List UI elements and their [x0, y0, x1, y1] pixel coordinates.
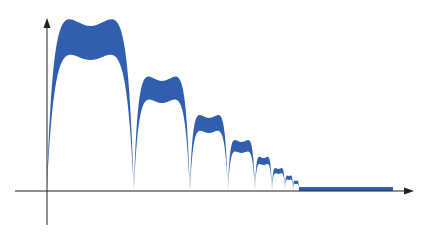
x-axis-arrow-icon [404, 188, 414, 195]
arc-band-5 [255, 157, 272, 191]
arc-band-1 [47, 19, 134, 191]
arc-band-8 [293, 181, 299, 191]
arc-band-6 [272, 168, 285, 191]
arc-band-3 [190, 115, 228, 191]
y-axis-arrow-icon [44, 18, 51, 28]
arc-band-4 [228, 140, 255, 191]
arc-band-2 [134, 77, 190, 191]
flat-band [299, 187, 393, 191]
arc-bands [47, 19, 299, 191]
bouncing-arcs-diagram [0, 0, 432, 235]
arc-band-7 [285, 175, 293, 191]
